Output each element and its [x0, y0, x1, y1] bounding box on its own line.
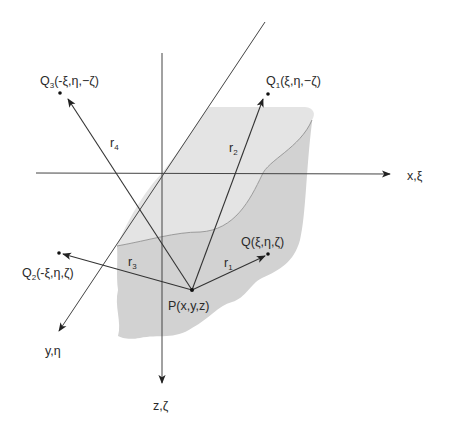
- label-P: P(x,y,z): [168, 299, 209, 313]
- x-axis: [36, 173, 390, 174]
- image-method-diagram: x,ξ y,η z,ζ P(x,y,z) Q(ξ,η,ζ) Q1(ξ,η,−ζ)…: [0, 0, 458, 432]
- point-Q: [266, 252, 270, 256]
- label-Q2: Q2(-ξ,η,ζ): [22, 266, 74, 282]
- point-Q3: [58, 91, 62, 95]
- label-Q1: Q1(ξ,η,−ζ): [266, 74, 321, 90]
- point-Q1: [266, 92, 270, 96]
- label-Q3: Q3(-ξ,η,−ζ): [40, 74, 99, 90]
- point-Q2: [57, 251, 61, 255]
- label-r4: r4: [110, 136, 119, 152]
- z-axis-label: z,ζ: [153, 399, 169, 413]
- label-Q: Q(ξ,η,ζ): [241, 235, 284, 249]
- point-P: [190, 288, 194, 292]
- x-axis-label: x,ξ: [407, 169, 423, 183]
- y-axis-label: y,η: [45, 344, 61, 358]
